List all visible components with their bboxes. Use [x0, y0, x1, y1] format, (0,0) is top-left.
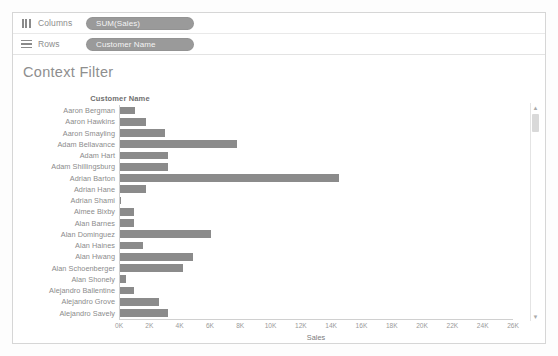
row-header[interactable]: Alan Shonely: [13, 274, 119, 285]
x-axis-ticks: 0K2K4K6K8K10K12K14K16K18K20K22K24K26K: [119, 320, 513, 332]
page-title: Context Filter: [23, 64, 113, 80]
x-axis-tick-label: 14K: [325, 322, 337, 329]
bar-mark[interactable]: [120, 230, 211, 238]
row-header-label: Alan Shonely: [71, 274, 115, 285]
row-header-label: Aaron Smayling: [63, 128, 115, 139]
bar-mark[interactable]: [120, 152, 168, 160]
bar-row: [120, 116, 513, 127]
bar-row: [120, 195, 513, 206]
bar-mark[interactable]: [120, 253, 193, 261]
row-header-label: Alan Haines: [75, 240, 115, 251]
bar-row: [120, 150, 513, 161]
bar-row: [120, 161, 513, 172]
row-header-label: Alan Dominguez: [61, 229, 115, 240]
bar-mark[interactable]: [120, 275, 126, 283]
rows-icon: [19, 39, 33, 50]
bar-mark[interactable]: [120, 298, 159, 306]
bar-mark[interactable]: [120, 242, 143, 250]
row-header-label: Aaron Bergman: [63, 105, 115, 116]
x-axis-tick-label: 16K: [356, 322, 368, 329]
row-header[interactable]: Adrian Barton: [13, 173, 119, 184]
row-header[interactable]: Aaron Smayling: [13, 128, 119, 139]
x-axis-tick-label: 4K: [176, 322, 184, 329]
x-axis-tick-label: 22K: [447, 322, 459, 329]
row-header[interactable]: Adam Bellavance: [13, 139, 119, 150]
row-header-label: Alejandro Grove: [62, 296, 115, 307]
row-header-label: Adrian Barton: [70, 173, 115, 184]
row-header-label: Adrian Hane: [74, 184, 115, 195]
row-header-label: Alan Schoenberger: [52, 263, 115, 274]
scroll-down-arrow-icon[interactable]: ▼: [531, 312, 540, 321]
x-axis-tick-label: 26K: [507, 322, 519, 329]
plot-area: Aaron BergmanAaron HawkinsAaron Smayling…: [13, 105, 545, 319]
row-header[interactable]: Alejandro Savely: [13, 308, 119, 319]
pill-sum-sales[interactable]: SUM(Sales): [86, 17, 194, 30]
row-header[interactable]: Adam Hart: [13, 150, 119, 161]
x-axis-tick-label: 24K: [477, 322, 489, 329]
row-header[interactable]: Aimee Bixby: [13, 206, 119, 217]
bar-mark[interactable]: [120, 140, 237, 148]
x-axis-tick-label: 10K: [265, 322, 277, 329]
row-header-label: Adam Bellavance: [57, 139, 115, 150]
row-header-label: Adrian Shami: [71, 195, 115, 206]
x-axis-tick-label: 8K: [236, 322, 244, 329]
bar-row: [120, 128, 513, 139]
bar-row: [120, 173, 513, 184]
bar-mark[interactable]: [120, 197, 121, 205]
scroll-up-arrow-icon[interactable]: ▲: [531, 103, 540, 112]
row-header[interactable]: Alan Hwang: [13, 251, 119, 262]
bar-mark[interactable]: [120, 219, 134, 227]
view-canvas: Context Filter Customer Name Aaron Bergm…: [13, 56, 545, 343]
marks-pane: [119, 105, 513, 319]
pill-customer-name[interactable]: Customer Name: [86, 38, 194, 51]
vertical-scrollbar[interactable]: ▲ ▼: [530, 103, 539, 321]
bar-mark[interactable]: [120, 264, 183, 272]
bar-row: [120, 263, 513, 274]
rows-shelf-label: Rows: [38, 39, 86, 49]
row-header-label: Alejandro Ballentine: [49, 285, 115, 296]
bar-mark[interactable]: [120, 185, 146, 193]
bar-mark[interactable]: [120, 129, 165, 137]
bar-mark[interactable]: [120, 118, 146, 126]
bar-row: [120, 308, 513, 319]
bar-row: [120, 296, 513, 307]
row-header[interactable]: Alejandro Ballentine: [13, 285, 119, 296]
x-axis-tick-label: 2K: [145, 322, 153, 329]
row-header-label: Alan Barnes: [75, 218, 115, 229]
columns-icon: [19, 18, 33, 29]
row-header[interactable]: Alan Haines: [13, 240, 119, 251]
columns-shelf-label: Columns: [38, 18, 86, 28]
bar-mark[interactable]: [120, 309, 168, 317]
x-axis-tick-label: 0K: [115, 322, 123, 329]
bar-mark[interactable]: [120, 174, 339, 182]
row-header[interactable]: Alan Schoenberger: [13, 263, 119, 274]
row-field-caption: Customer Name: [63, 94, 177, 103]
row-header[interactable]: Aaron Hawkins: [13, 116, 119, 127]
scrollbar-thumb[interactable]: [532, 114, 539, 132]
row-header[interactable]: Alan Barnes: [13, 218, 119, 229]
rows-shelf[interactable]: Rows Customer Name: [13, 34, 545, 55]
bar-row: [120, 285, 513, 296]
row-headers: Aaron BergmanAaron HawkinsAaron Smayling…: [13, 105, 119, 319]
x-axis-tick-label: 12K: [295, 322, 307, 329]
row-header-label: Alejandro Savely: [59, 308, 115, 319]
x-axis-tick-label: 18K: [386, 322, 398, 329]
x-axis-tick-label: 6K: [206, 322, 214, 329]
bar-row: [120, 184, 513, 195]
bar-mark[interactable]: [120, 163, 168, 171]
x-axis-title: Sales: [119, 333, 513, 342]
bar-row: [120, 139, 513, 150]
bar-mark[interactable]: [120, 208, 134, 216]
columns-shelf[interactable]: Columns SUM(Sales): [13, 13, 545, 34]
row-header[interactable]: Alan Dominguez: [13, 229, 119, 240]
row-header-label: Adam Hart: [80, 150, 115, 161]
row-header-label: Aaron Hawkins: [65, 116, 115, 127]
bar-row: [120, 251, 513, 262]
row-header[interactable]: Adrian Hane: [13, 184, 119, 195]
bar-mark[interactable]: [120, 107, 135, 115]
row-header[interactable]: Alejandro Grove: [13, 296, 119, 307]
row-header[interactable]: Aaron Bergman: [13, 105, 119, 116]
row-header[interactable]: Adrian Shami: [13, 195, 119, 206]
row-header[interactable]: Adam Shillingsburg: [13, 161, 119, 172]
bar-mark[interactable]: [120, 287, 134, 295]
